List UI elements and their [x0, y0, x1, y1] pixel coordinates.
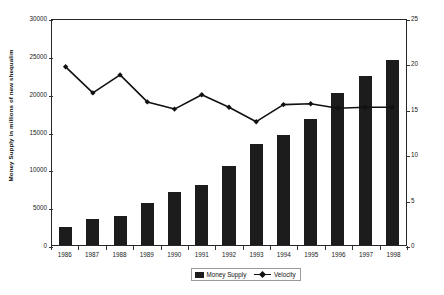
x-axis-label-1989: 1989: [133, 250, 160, 262]
bar-slot: [188, 20, 215, 245]
bar-swatch-icon: [195, 272, 204, 278]
x-axis-tick-mark: [297, 246, 298, 250]
x-axis-label-1994: 1994: [270, 250, 297, 262]
y-axis-right-tick-label: 5: [411, 197, 444, 204]
y-axis-left-tick-label: 10000: [7, 166, 47, 173]
y-axis-left-tick-label: 15000: [7, 129, 47, 136]
bar-slot: [106, 20, 133, 245]
x-axis-tick-mark: [188, 246, 189, 250]
bar-1995: [304, 119, 317, 245]
bar-slot: [215, 20, 242, 245]
x-axis-labels: 1986198719881989199019911992199319941995…: [51, 250, 407, 262]
x-axis-tick-mark: [243, 246, 244, 250]
y-axis-right-tick-mark: [406, 202, 410, 203]
x-axis-label-1987: 1987: [78, 250, 105, 262]
y-axis-right-tick-mark: [406, 111, 410, 112]
bar-1986: [59, 227, 72, 245]
bar-slot: [134, 20, 161, 245]
x-axis-label-1998: 1998: [380, 250, 407, 262]
bar-slot: [297, 20, 324, 245]
bar-1991: [195, 185, 208, 245]
x-axis-tick-mark: [106, 246, 107, 250]
legend-label: Money Supply: [207, 271, 247, 279]
x-axis-tick-mark: [133, 246, 134, 250]
x-axis-tick-mark: [380, 246, 381, 250]
y-axis-left-tick-label: 30000: [7, 15, 47, 22]
y-axis-right-tick-label: 10: [411, 151, 444, 158]
bar-1987: [86, 219, 99, 245]
plot-area: [51, 19, 407, 246]
bar-slot: [79, 20, 106, 245]
x-axis-label-1997: 1997: [352, 250, 379, 262]
y-axis-left-tick-mark: [49, 171, 53, 172]
x-axis-tick-mark: [407, 246, 408, 250]
y-axis-right-tick-mark: [406, 20, 410, 21]
y-axis-left-tick-label: 0: [7, 242, 47, 249]
chart-legend: Money SupplyVelocity: [191, 268, 301, 281]
bar-1992: [222, 166, 235, 245]
bar-1994: [277, 135, 290, 245]
bar-slot: [352, 20, 379, 245]
x-axis-label-1990: 1990: [161, 250, 188, 262]
x-axis-tick-mark: [78, 246, 79, 250]
legend-entry: Money Supply: [195, 271, 246, 279]
x-axis-tick-mark: [325, 246, 326, 250]
y-axis-left-tick-mark: [49, 134, 53, 135]
x-axis-tick-mark: [161, 246, 162, 250]
bar-slot: [52, 20, 79, 245]
bar-slot: [324, 20, 351, 245]
y-axis-left-tick-label: 5000: [7, 204, 47, 211]
bar-series-money-supply: [52, 20, 406, 245]
x-axis-label-1988: 1988: [106, 250, 133, 262]
bar-1988: [114, 216, 127, 246]
bar-slot: [379, 20, 406, 245]
chart-figure: Money Supply in millions of new shequali…: [0, 0, 444, 295]
x-axis-label-1991: 1991: [188, 250, 215, 262]
bar-1996: [331, 93, 344, 245]
x-axis-tick-mark: [51, 246, 52, 250]
y-axis-left-tick-mark: [49, 58, 53, 59]
x-axis-label-1995: 1995: [298, 250, 325, 262]
x-axis-label-1993: 1993: [243, 250, 270, 262]
x-axis-tick-mark: [352, 246, 353, 250]
legend-label: Velocity: [274, 271, 296, 279]
bar-1989: [141, 203, 154, 245]
x-axis-tick-mark: [270, 246, 271, 250]
y-axis-right-tick-mark: [406, 65, 410, 66]
x-axis-label-1992: 1992: [215, 250, 242, 262]
legend-entry: Velocity: [254, 271, 295, 279]
bar-slot: [270, 20, 297, 245]
y-axis-right-tick-label: 20: [411, 60, 444, 67]
y-axis-right-tick-label: 25: [411, 15, 444, 22]
y-axis-right-tick-label: 15: [411, 106, 444, 113]
line-marker-icon: [254, 271, 271, 278]
y-axis-left-tick-label: 20000: [7, 91, 47, 98]
x-axis-label-1986: 1986: [51, 250, 78, 262]
bar-1993: [250, 144, 263, 245]
figure-caption: [6, 286, 438, 295]
y-axis-left-tick-mark: [49, 20, 53, 21]
bar-1997: [359, 76, 372, 245]
bar-slot: [243, 20, 270, 245]
y-axis-right-ticks: 0510152025: [411, 19, 444, 246]
x-axis-label-1996: 1996: [325, 250, 352, 262]
y-axis-left-ticks: 050001000015000200002500030000: [5, 19, 47, 246]
y-axis-right-tick-mark: [406, 156, 410, 157]
y-axis-left-tick-label: 25000: [7, 53, 47, 60]
x-axis-tick-mark: [215, 246, 216, 250]
y-axis-left-tick-mark: [49, 209, 53, 210]
bar-slot: [161, 20, 188, 245]
y-axis-left-tick-mark: [49, 96, 53, 97]
bar-1990: [168, 192, 181, 245]
y-axis-right-tick-label: 0: [411, 242, 444, 249]
bar-1998: [386, 60, 399, 245]
